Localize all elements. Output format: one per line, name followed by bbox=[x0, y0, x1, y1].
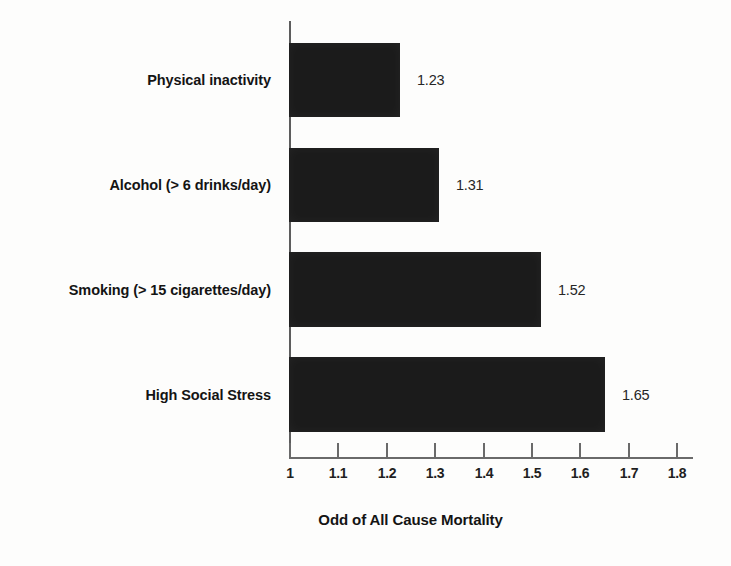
bar-row: Physical inactivity 1.23 bbox=[289, 43, 676, 117]
x-tick-mark bbox=[386, 443, 388, 458]
plot-area: Physical inactivity 1.23 Alcohol (> 6 dr… bbox=[289, 20, 676, 458]
x-tick-mark bbox=[434, 443, 436, 458]
x-axis-title: Odd of All Cause Mortality bbox=[0, 511, 731, 528]
bar-row: High Social Stress 1.65 bbox=[289, 357, 676, 432]
bar-category-label: Smoking (> 15 cigarettes/day) bbox=[69, 282, 271, 298]
x-tick-label: 1.1 bbox=[329, 465, 348, 481]
bar-rect[interactable] bbox=[289, 148, 439, 222]
bar-category-label: Alcohol (> 6 drinks/day) bbox=[109, 177, 271, 193]
x-tick-mark bbox=[337, 443, 339, 458]
x-tick-label: 1.4 bbox=[475, 465, 494, 481]
x-tick-label: 1.6 bbox=[571, 465, 590, 481]
bar-category-label: Physical inactivity bbox=[147, 72, 271, 88]
x-tick-mark bbox=[289, 443, 291, 458]
x-tick-mark bbox=[676, 443, 678, 458]
x-tick-mark bbox=[483, 443, 485, 458]
bar-category-label: High Social Stress bbox=[145, 387, 271, 403]
x-tick-label: 1.5 bbox=[523, 465, 542, 481]
x-tick-label: 1.8 bbox=[668, 465, 687, 481]
x-tick-label: 1.2 bbox=[378, 465, 397, 481]
bar-row: Alcohol (> 6 drinks/day) 1.31 bbox=[289, 148, 676, 222]
bar-rect[interactable] bbox=[289, 357, 605, 432]
x-tick-mark bbox=[531, 443, 533, 458]
x-tick-mark bbox=[579, 443, 581, 458]
x-tick-label: 1.7 bbox=[620, 465, 639, 481]
x-tick-mark bbox=[628, 443, 630, 458]
x-tick-label: 1 bbox=[286, 465, 294, 481]
bar-value-label: 1.52 bbox=[558, 282, 585, 298]
bar-value-label: 1.31 bbox=[456, 177, 483, 193]
bar-row: Smoking (> 15 cigarettes/day) 1.52 bbox=[289, 252, 676, 327]
bar-value-label: 1.65 bbox=[622, 387, 649, 403]
bar-rect[interactable] bbox=[289, 43, 400, 117]
bar-rect[interactable] bbox=[289, 252, 541, 327]
bar-value-label: 1.23 bbox=[417, 72, 444, 88]
x-tick-label: 1.3 bbox=[426, 465, 445, 481]
bar-chart-figure: Physical inactivity 1.23 Alcohol (> 6 dr… bbox=[0, 0, 731, 566]
